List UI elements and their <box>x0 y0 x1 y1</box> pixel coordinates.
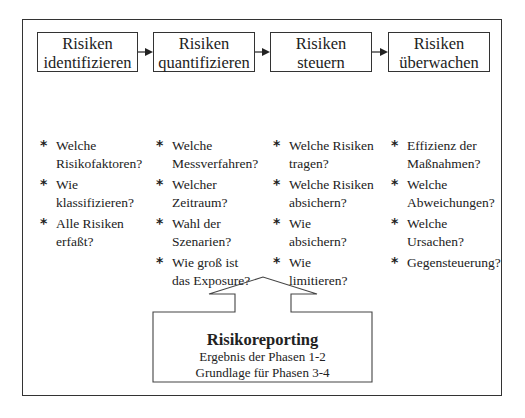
report-line-1: Ergebnis der Phasen 1-2 <box>153 349 372 365</box>
asterisk-bullet-icon: * <box>273 137 280 155</box>
questions-quantify: *WelcheMessverfahren? *WelcherZeitraum? … <box>156 137 271 293</box>
question-item: *Gegensteuerung? <box>391 254 503 272</box>
question-item: *Welche Risikenabsichern? <box>273 176 388 211</box>
asterisk-bullet-icon: * <box>40 137 47 155</box>
asterisk-bullet-icon: * <box>273 176 280 194</box>
risk-reporting-box: Risikoreporting Ergebnis der Phasen 1-2 … <box>153 330 372 381</box>
question-item: *Wielimitieren? <box>273 254 388 289</box>
question-item: *Welche Risikentragen? <box>273 137 388 172</box>
question-item: *WelcheUrsachen? <box>391 215 503 250</box>
questions-identify: *WelcheRisikofaktoren? *Wieklassifiziere… <box>40 137 150 254</box>
asterisk-bullet-icon: * <box>156 176 163 194</box>
arrow-right-icon <box>372 48 388 56</box>
asterisk-bullet-icon: * <box>156 137 163 155</box>
question-item: *Wie groß istdas Exposure? <box>156 254 271 289</box>
report-title: Risikoreporting <box>153 330 372 349</box>
question-item: *WelcheRisikofaktoren? <box>40 137 150 172</box>
questions-monitor: *Effizienz derMaßnahmen? *WelcheAbweichu… <box>391 137 503 276</box>
question-item: *WelcheAbweichungen? <box>391 176 503 211</box>
question-item: *Effizienz derMaßnahmen? <box>391 137 503 172</box>
questions-control: *Welche Risikentragen? *Welche Risikenab… <box>273 137 388 293</box>
asterisk-bullet-icon: * <box>391 137 398 155</box>
asterisk-bullet-icon: * <box>391 176 398 194</box>
asterisk-bullet-icon: * <box>273 215 280 233</box>
arrow-right-icon <box>255 48 270 56</box>
question-item: *Wieabsichern? <box>273 215 388 250</box>
asterisk-bullet-icon: * <box>391 254 398 272</box>
arrow-right-icon <box>138 48 153 56</box>
question-item: *WelcheMessverfahren? <box>156 137 271 172</box>
asterisk-bullet-icon: * <box>156 254 163 272</box>
asterisk-bullet-icon: * <box>40 176 47 194</box>
asterisk-bullet-icon: * <box>273 254 280 272</box>
asterisk-bullet-icon: * <box>391 215 398 233</box>
question-item: *WelcherZeitraum? <box>156 176 271 211</box>
asterisk-bullet-icon: * <box>156 215 163 233</box>
report-line-2: Grundlage für Phasen 3-4 <box>153 365 372 381</box>
asterisk-bullet-icon: * <box>40 215 47 233</box>
question-item: *Wahl derSzenarien? <box>156 215 271 250</box>
question-item: *Alle Risikenerfaßt? <box>40 215 150 250</box>
question-item: *Wieklassifizieren? <box>40 176 150 211</box>
